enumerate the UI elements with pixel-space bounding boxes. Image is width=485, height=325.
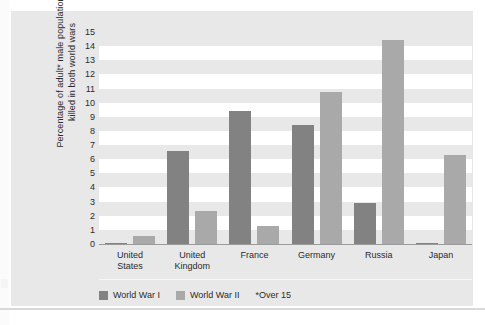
legend-footnote: *Over 15	[256, 291, 292, 300]
bar-ww2	[382, 40, 404, 244]
x-axis-category-label: Japan	[410, 247, 472, 277]
bar-ww1	[229, 111, 251, 244]
legend-label: World War II	[190, 291, 240, 300]
chart-card: Percentage of adult* male population kil…	[11, 11, 473, 306]
bar-ww1	[354, 203, 376, 244]
y-axis-tick-labels: 0123456789101112131415	[73, 26, 95, 250]
bar-group	[223, 32, 285, 244]
bar-ww2	[133, 236, 155, 244]
y-axis-tick: 11	[73, 84, 95, 93]
x-axis-category-label: Germany	[286, 247, 348, 277]
legend-swatch-icon	[99, 291, 108, 300]
legend-swatch-icon	[176, 291, 185, 300]
x-axis-category-labels: United StatesUnited KingdomFranceGermany…	[99, 247, 472, 277]
y-axis-tick: 14	[73, 42, 95, 51]
chart-legend: World War IWorld War II*Over 15	[99, 288, 291, 302]
bar-ww1	[167, 151, 189, 244]
bar-group	[99, 32, 161, 244]
bar-ww2	[444, 155, 466, 244]
y-axis-tick: 3	[73, 197, 95, 206]
x-axis-line	[99, 244, 472, 245]
bar-ww2	[195, 211, 217, 244]
x-axis-category-label: Russia	[348, 247, 410, 277]
bar-ww2	[257, 226, 279, 244]
bar-group	[161, 32, 223, 244]
x-axis-category-label: United States	[99, 247, 161, 277]
chart-figure: Percentage of adult* male population kil…	[0, 0, 485, 325]
page-number-marker	[1, 279, 8, 288]
bar-group	[410, 32, 472, 244]
y-axis-tick: 1	[73, 225, 95, 234]
plot-area	[99, 32, 472, 244]
legend-item[interactable]: World War II	[176, 291, 240, 300]
bar-ww2	[320, 92, 342, 244]
bar-ww1	[292, 125, 314, 244]
bar-groups	[99, 32, 472, 244]
y-axis-tick: 13	[73, 56, 95, 65]
y-axis-tick: 12	[73, 70, 95, 79]
page-edge-margin	[0, 0, 9, 325]
legend-label: World War I	[113, 291, 160, 300]
legend-item[interactable]: World War I	[99, 291, 160, 300]
y-axis-tick: 4	[73, 183, 95, 192]
footer-rule	[0, 308, 485, 310]
y-axis-tick: 2	[73, 211, 95, 220]
y-axis-tick: 6	[73, 155, 95, 164]
y-axis-tick: 8	[73, 126, 95, 135]
legend-divider	[99, 279, 472, 280]
y-axis-tick: 7	[73, 141, 95, 150]
y-axis-tick: 0	[73, 240, 95, 249]
y-axis-tick: 5	[73, 169, 95, 178]
x-axis-category-label: United Kingdom	[161, 247, 223, 277]
bar-group	[286, 32, 348, 244]
y-axis-tick: 9	[73, 112, 95, 121]
x-axis-category-label: France	[223, 247, 285, 277]
y-axis-tick: 15	[73, 28, 95, 37]
y-axis-tick: 10	[73, 98, 95, 107]
bar-group	[348, 32, 410, 244]
